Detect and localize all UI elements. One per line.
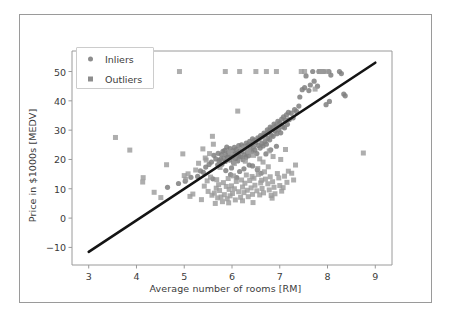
data-point [220,199,225,204]
data-point [260,186,265,191]
data-point [237,169,242,174]
scatter-plot-canvas [0,0,451,319]
data-point [217,188,222,193]
data-point [339,71,344,76]
data-point [209,160,214,165]
data-point [204,158,209,163]
data-point [296,104,301,109]
data-point [270,196,275,201]
data-point [202,184,207,189]
data-point [211,142,216,147]
data-point [229,165,234,170]
data-point [278,130,283,135]
data-point [267,187,272,192]
x-tick-label: 6 [229,271,235,282]
data-point [272,185,277,190]
data-point [261,190,266,195]
data-point [303,73,308,78]
data-point [297,94,302,99]
data-point [251,153,256,158]
data-point [343,93,348,98]
data-point [216,182,221,187]
data-point [244,173,249,178]
data-point [207,151,212,156]
data-point [228,150,233,155]
data-point [246,194,251,199]
x-tick-label: 9 [372,271,378,282]
legend-label-inliers: Inliers [105,53,134,64]
y-tick-label: 10 [36,183,66,194]
x-tick-label: 3 [86,271,92,282]
inlier-marker-icon [88,56,93,61]
data-point [196,161,201,166]
data-point [237,69,242,74]
data-point [293,163,298,168]
y-tick-label: 40 [36,95,66,106]
data-point [320,69,325,74]
data-point [274,69,279,74]
data-point [141,175,146,180]
data-point [291,177,296,182]
data-point [190,192,195,197]
data-point [223,168,228,173]
data-point [158,195,163,200]
data-point [253,69,258,74]
data-point [183,177,188,182]
data-point [302,85,307,90]
data-point [275,171,280,176]
data-point [255,166,260,171]
data-point [140,180,145,185]
data-point [214,177,219,182]
data-point [233,197,238,202]
data-point [312,79,317,84]
data-point [284,180,289,185]
data-point [193,168,198,173]
data-point [246,149,251,154]
legend-label-outliers: Outliers [105,73,142,84]
data-point [223,69,228,74]
data-point [266,164,271,169]
data-point [234,179,239,184]
y-tick-label: 0 [36,213,66,224]
legend-entry-outliers: Outliers [77,68,153,89]
data-point [274,144,279,149]
data-point [271,154,276,159]
data-point [286,169,291,174]
data-point [267,148,272,153]
data-point [252,183,257,188]
data-point [327,99,332,104]
data-point [262,169,267,174]
data-point [278,157,283,162]
data-point [242,181,247,186]
y-tick-label: −10 [36,242,66,253]
data-point [361,151,366,156]
data-point [250,192,255,197]
data-point [256,172,261,177]
data-point [250,174,255,179]
outlier-marker-icon [88,76,93,81]
data-point [212,191,217,196]
data-point [226,176,231,181]
data-point [310,69,315,74]
x-tick-label: 4 [133,271,139,282]
data-point [308,82,313,87]
data-point [208,175,213,180]
data-point [313,87,318,92]
data-point [264,142,269,147]
data-point [241,166,246,171]
data-point [240,198,245,203]
x-axis-label: Average number of rooms [RM] [0,283,451,294]
legend-entry-inliers: Inliers [77,48,153,69]
data-point [282,174,287,179]
chart-legend: Inliers Outliers [76,47,154,89]
data-point [232,161,237,166]
data-point [231,173,236,178]
data-point [226,200,231,205]
data-point [270,179,275,184]
data-point [200,146,205,151]
data-point [251,200,256,205]
data-point [268,174,273,179]
data-point [177,69,182,74]
data-point [264,69,269,74]
data-point [232,186,237,191]
